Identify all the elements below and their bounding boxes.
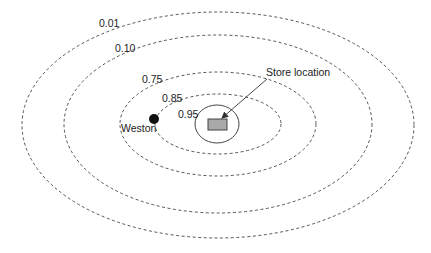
store-icon (208, 119, 227, 130)
store-location-label: Store location (266, 66, 330, 78)
contour-label-0-85: 0.85 (162, 92, 183, 104)
contour-label-0-75: 0.75 (142, 73, 163, 85)
contour-label-0-95: 0.95 (178, 108, 199, 120)
store-leader-arrow (222, 79, 267, 118)
town-label-weston: Weston (121, 122, 157, 134)
trade-area-diagram: 0.01 0.10 0.75 0.85 0.95 Store location … (0, 0, 431, 253)
contour-label-0-01: 0.01 (99, 17, 120, 29)
contour-label-0-10: 0.10 (115, 42, 136, 54)
